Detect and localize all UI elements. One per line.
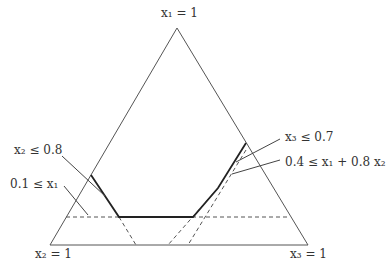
constraint-label-mix: 0.4 ≤ x₁ + 0.8 x₂: [285, 155, 386, 169]
vertex-label-bottom-left: x₂ = 1: [35, 247, 72, 261]
leader-x1-min: [64, 186, 88, 215]
constraint-label-x2-max: x₂ ≤ 0.8: [14, 143, 62, 157]
vertex-label-top: x₁ = 1: [161, 6, 198, 20]
constraint-label-x3-max: x₃ ≤ 0.7: [285, 130, 333, 144]
constraint-x2-max-dashed: [119, 217, 136, 245]
feasible-region-boundary: [91, 143, 246, 217]
simplex-triangle: [50, 28, 308, 245]
vertex-label-bottom-right: x₃ = 1: [290, 247, 327, 261]
leader-mix: [232, 160, 280, 174]
leader-x3-max: [236, 139, 280, 162]
constraint-label-x1-min: 0.1 ≤ x₁: [10, 177, 58, 191]
constraint-x3-max-dashed: [188, 150, 246, 245]
